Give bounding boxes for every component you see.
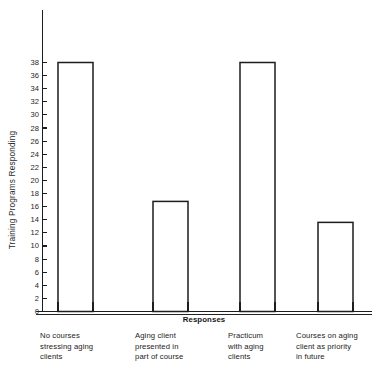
y-tick-label: 26	[31, 137, 39, 146]
x-axis-category-label: No courses stressing aging clients	[40, 331, 132, 363]
y-tick-label: 14	[31, 215, 39, 224]
x-axis-title: Responses	[183, 315, 226, 324]
y-axis-title: Training Programs Responding	[7, 130, 17, 249]
chart-canvas: 02468101214161820222426283032343638 Trai…	[0, 0, 377, 370]
y-axis-ticks: 02468101214161820222426283032343638	[31, 58, 47, 316]
y-tick-label: 4	[35, 281, 39, 290]
x-axis-category-label: Aging client presented in part of course	[135, 331, 227, 363]
bar-series	[58, 63, 353, 312]
y-tick-label: 2	[35, 294, 39, 303]
y-tick-label: 28	[31, 124, 39, 133]
bar	[153, 201, 188, 311]
y-tick-label: 20	[31, 176, 39, 185]
y-tick-label: 18	[31, 189, 39, 198]
y-tick-label: 36	[31, 71, 39, 80]
y-tick-label: 8	[35, 255, 39, 264]
bar	[58, 63, 93, 312]
y-tick-label: 6	[35, 268, 39, 277]
y-tick-label: 32	[31, 97, 39, 106]
y-tick-label: 16	[31, 202, 39, 211]
x-axis-category-label: Courses on aging client as priority in f…	[296, 331, 377, 363]
y-tick-label: 10	[31, 241, 39, 250]
y-tick-label: 22	[31, 163, 39, 172]
x-axis-category-label: Practicum with aging clients	[228, 331, 298, 363]
bar-chart: 02468101214161820222426283032343638 Trai…	[0, 0, 377, 370]
bar	[318, 222, 353, 311]
y-tick-label: 38	[31, 58, 39, 67]
y-tick-label: 30	[31, 110, 39, 119]
y-tick-label: 34	[31, 84, 39, 93]
bar	[240, 63, 275, 312]
y-tick-label: 12	[31, 228, 39, 237]
bar-base-ticks	[58, 302, 353, 312]
y-tick-label: 0	[35, 307, 39, 316]
y-tick-label: 24	[31, 150, 39, 159]
